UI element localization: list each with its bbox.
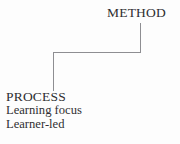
process-detail-line-2: Learner-led	[6, 117, 126, 131]
diagram-canvas: METHOD PROCESS Learning focus Learner-le…	[0, 0, 180, 144]
node-process-label: PROCESS	[6, 90, 66, 104]
method-to-process-connector-line	[53, 23, 140, 91]
process-details-group: Learning focus Learner-led	[6, 103, 126, 131]
node-method-label: METHOD	[107, 6, 166, 20]
process-detail-line-1: Learning focus	[6, 103, 126, 117]
